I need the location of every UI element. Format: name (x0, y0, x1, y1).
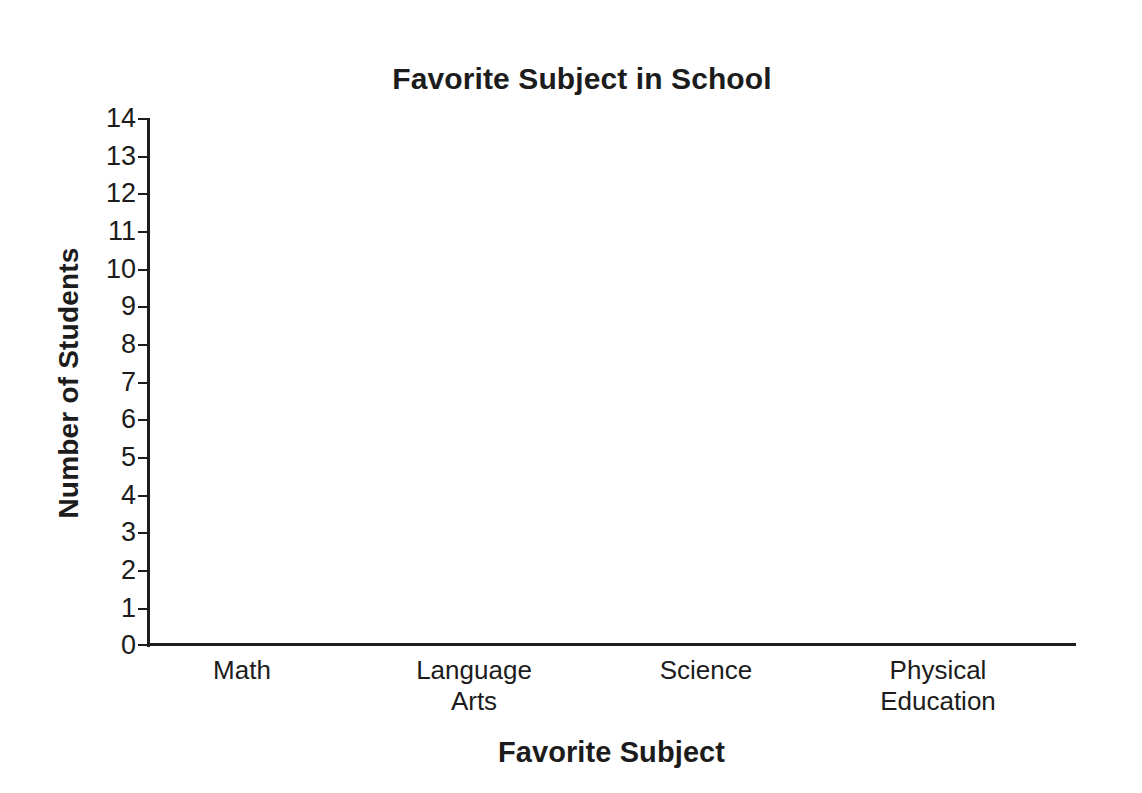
y-tick-label-6: 6 (16, 406, 136, 433)
x-tick-label-science-line1: Science (660, 655, 753, 685)
y-tick-label-10: 10 (16, 256, 136, 283)
x-tick-label-language-arts-line1: Language (416, 655, 532, 685)
x-tick-label-physical-education: Physical Education (822, 655, 1054, 717)
x-tick-label-science: Science (590, 655, 822, 686)
y-tick-label-13: 13 (16, 143, 136, 170)
x-axis-line (147, 643, 1076, 646)
plot-area (150, 118, 1076, 643)
y-tick-label-12: 12 (16, 180, 136, 207)
y-tick-label-11: 11 (16, 218, 136, 245)
y-tick-label-5: 5 (16, 444, 136, 471)
y-tick-label-3: 3 (16, 519, 136, 546)
y-tick-label-2: 2 (16, 557, 136, 584)
x-tick-label-language-arts-line2: Arts (358, 686, 590, 717)
y-tick-label-1: 1 (16, 595, 136, 622)
x-axis-title: Favorite Subject (147, 736, 1076, 769)
chart-canvas: Favorite Subject in School Number of Stu… (0, 0, 1142, 793)
chart-title: Favorite Subject in School (0, 62, 1142, 96)
x-tick-label-physical-education-line2: Education (822, 686, 1054, 717)
y-tick-label-7: 7 (16, 369, 136, 396)
y-tick-label-14: 14 (16, 105, 136, 132)
y-tick-label-0: 0 (16, 632, 136, 659)
x-tick-label-math: Math (126, 655, 358, 686)
x-tick-label-physical-education-line1: Physical (890, 655, 987, 685)
y-tick-label-4: 4 (16, 482, 136, 509)
y-tick-label-8: 8 (16, 331, 136, 358)
x-tick-label-math-line1: Math (213, 655, 271, 685)
x-tick-label-language-arts: Language Arts (358, 655, 590, 717)
chart-title-text: Favorite Subject in School (392, 62, 771, 96)
y-tick-label-9: 9 (16, 293, 136, 320)
